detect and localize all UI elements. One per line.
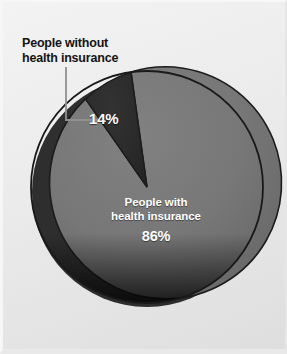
slice-percent-label-with: 86% — [86, 228, 226, 244]
pie-slice-people-with-health-insurance — [50, 67, 282, 299]
slice-percent-label-without: 14% — [89, 110, 118, 127]
callout-label-people-without-health-insurance: People without health insurance — [22, 36, 162, 66]
pie-chart-figure: People without health insurance 14% Peop… — [0, 0, 287, 354]
slice-label-people-with-health-insurance: People with health insurance — [86, 196, 226, 224]
